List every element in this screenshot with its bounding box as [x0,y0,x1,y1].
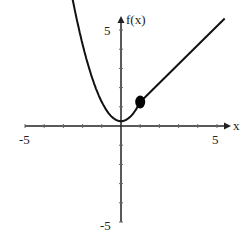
y-axis-arrow-icon [118,16,125,23]
x-axis [25,123,231,130]
y-max-label: 5 [104,23,111,38]
filled-point-marker [135,96,145,109]
x-axis-label: x [233,118,240,133]
x-max-label: 5 [212,132,219,147]
y-axis [118,16,125,222]
curve-right-piece [140,19,225,103]
y-min-label: -5 [100,218,111,233]
y-axis-label: f(x) [126,12,146,27]
x-axis-arrow-icon [224,123,231,130]
x-min-label: -5 [19,132,30,147]
function-graph: x f(x) -5 5 5 -5 [0,0,250,248]
